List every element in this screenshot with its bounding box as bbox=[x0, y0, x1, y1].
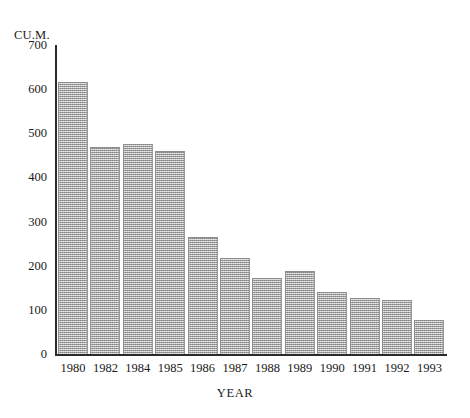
x-axis-tick-label: 1986 bbox=[190, 362, 215, 375]
x-axis-line bbox=[55, 354, 447, 356]
bar bbox=[252, 278, 282, 354]
y-axis-tick-label: 600 bbox=[5, 83, 47, 96]
y-axis-tick-label: 100 bbox=[5, 304, 47, 317]
x-axis-title: YEAR bbox=[0, 386, 470, 401]
bar bbox=[414, 320, 444, 354]
bar bbox=[220, 258, 250, 354]
bar bbox=[123, 144, 153, 354]
bar bbox=[382, 300, 412, 354]
plot-area bbox=[55, 45, 447, 355]
x-axis-tick-label: 1984 bbox=[125, 362, 150, 375]
bar-chart: CU.M. 7006005004003002001000 19801982198… bbox=[0, 0, 470, 418]
y-axis-tick-label: 300 bbox=[5, 215, 47, 228]
x-axis-tick-label: 1982 bbox=[93, 362, 118, 375]
x-axis-tick-labels: 1980198219841985198619871988198919901991… bbox=[55, 362, 447, 380]
x-axis-tick-label: 1985 bbox=[158, 362, 183, 375]
y-axis-tick-label: 500 bbox=[5, 127, 47, 140]
bar bbox=[90, 147, 120, 354]
bars-layer bbox=[55, 45, 447, 354]
x-axis-tick-label: 1987 bbox=[223, 362, 248, 375]
x-axis-tick-label: 1980 bbox=[61, 362, 86, 375]
x-axis-tick-label: 1990 bbox=[320, 362, 345, 375]
bar bbox=[155, 151, 185, 354]
bar bbox=[58, 82, 88, 354]
bar bbox=[188, 237, 218, 354]
x-axis-tick-label: 1991 bbox=[352, 362, 377, 375]
y-axis-tick-label: 0 bbox=[5, 348, 47, 361]
y-axis-tick-label: 400 bbox=[5, 171, 47, 184]
x-axis-tick-label: 1992 bbox=[385, 362, 410, 375]
y-axis-tick-label: 700 bbox=[5, 39, 47, 52]
bar bbox=[350, 298, 380, 354]
bar bbox=[317, 292, 347, 354]
x-axis-tick-label: 1993 bbox=[417, 362, 442, 375]
x-axis-tick-label: 1989 bbox=[287, 362, 312, 375]
x-axis-tick-label: 1988 bbox=[255, 362, 280, 375]
bar bbox=[285, 271, 315, 354]
y-axis-tick-labels: 7006005004003002001000 bbox=[0, 45, 47, 355]
y-axis-tick-label: 200 bbox=[5, 259, 47, 272]
